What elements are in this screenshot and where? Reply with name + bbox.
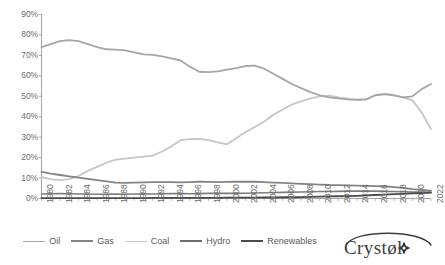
x-tick-label: 1980 <box>45 184 55 203</box>
x-tick-label: 2018 <box>398 184 408 203</box>
x-tick-label: 1988 <box>119 184 129 203</box>
legend-label: Coal <box>151 236 170 246</box>
x-tick-label: 2008 <box>305 184 315 203</box>
crystol-logo: Crystøl <box>341 228 437 262</box>
x-tick-label: 2000 <box>231 184 241 203</box>
x-tick-label: 2006 <box>286 184 296 203</box>
x-tick-label: 2004 <box>268 184 278 203</box>
legend-item-gas[interactable]: Gas <box>71 236 114 246</box>
legend-item-hydro[interactable]: Hydro <box>180 236 230 246</box>
x-tick-label: 2014 <box>360 184 370 203</box>
legend-label: Renewables <box>267 236 317 246</box>
x-tick-label: 1990 <box>138 184 148 203</box>
x-tick-label: 1986 <box>101 184 111 203</box>
legend-swatch-coal <box>125 241 147 242</box>
legend-item-coal[interactable]: Coal <box>125 236 170 246</box>
x-tick-label: 2010 <box>323 184 333 203</box>
legend-swatch-hydro <box>180 240 202 242</box>
x-tick-label: 1992 <box>156 184 166 203</box>
legend-label: Oil <box>49 236 60 246</box>
legend-swatch-oil <box>23 241 45 242</box>
x-tick-label: 1982 <box>64 184 74 203</box>
x-tick-label: 2002 <box>249 184 259 203</box>
x-tick-label: 2022 <box>435 184 445 203</box>
legend-item-oil[interactable]: Oil <box>23 236 60 246</box>
caption-text <box>0 258 438 265</box>
brand-wordmark: Crystøl <box>344 238 403 258</box>
legend-label: Hydro <box>206 236 230 246</box>
x-tick-label: 2012 <box>342 184 352 203</box>
legend-swatch-renewables <box>241 240 263 242</box>
x-tick-label: 2020 <box>416 184 426 203</box>
legend-label: Gas <box>97 236 114 246</box>
x-tick-label: 1996 <box>193 184 203 203</box>
legend-swatch-gas <box>71 240 93 242</box>
x-tick-label: 1998 <box>212 184 222 203</box>
x-tick-label: 1994 <box>175 184 185 203</box>
legend-item-renewables[interactable]: Renewables <box>241 236 317 246</box>
x-tick-label: 1984 <box>82 184 92 203</box>
x-tick-label: 2016 <box>379 184 389 203</box>
chart-legend: OilGasCoalHydroRenewables <box>0 231 340 251</box>
